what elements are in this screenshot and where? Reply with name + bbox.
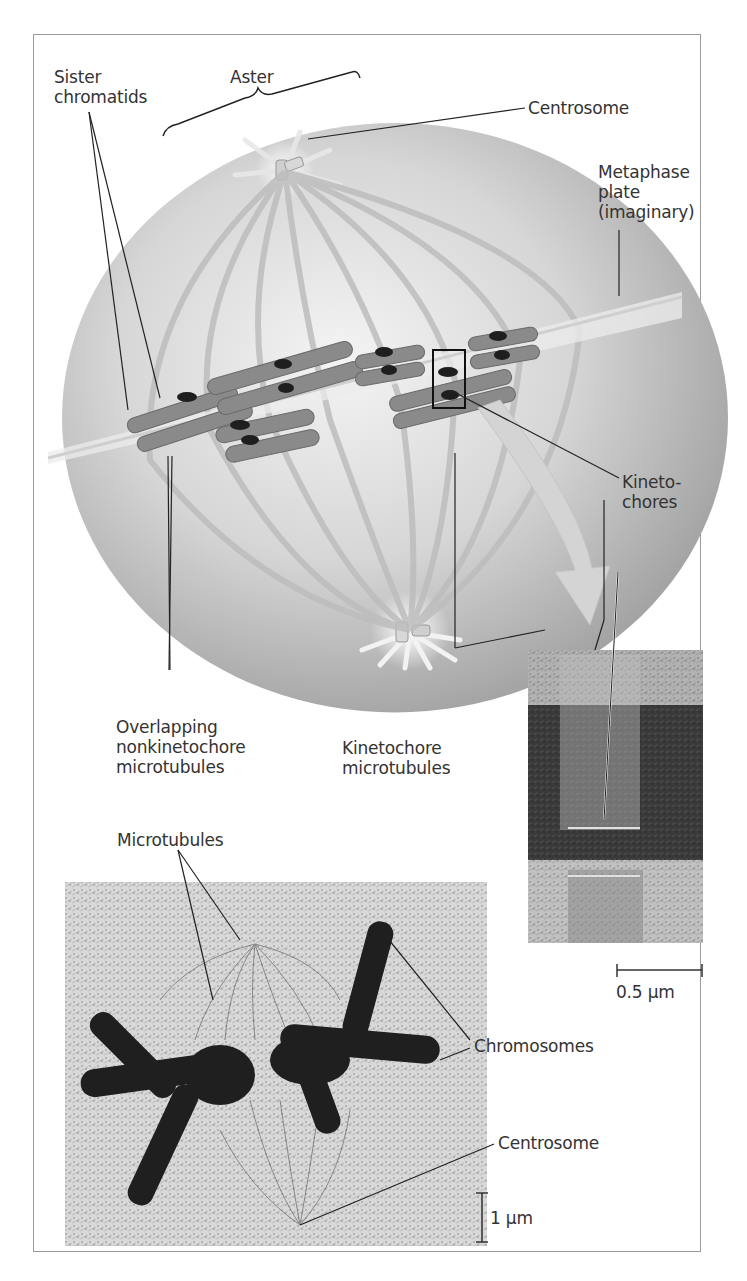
label-scale-1-um: 1 µm [490,1208,533,1228]
label-sister-chromatids: Sister chromatids [54,67,147,107]
label-aster: Aster [230,67,274,87]
label-chromosomes: Chromosomes [474,1036,594,1056]
label-centrosome-bottom: Centrosome [498,1133,599,1153]
label-microtubules: Microtubules [117,830,223,850]
label-scale-0-5-um: 0.5 µm [616,982,675,1002]
label-metaphase-plate: Metaphase plate (imaginary) [598,162,695,222]
label-centrosome-top: Centrosome [528,98,629,118]
label-overlapping-nonkinetochore-microtubules: Overlapping nonkinetochore microtubules [116,717,246,777]
label-kinetochore-microtubules: Kinetochore microtubules [342,738,450,778]
label-kinetochores: Kineto- chores [622,472,681,512]
